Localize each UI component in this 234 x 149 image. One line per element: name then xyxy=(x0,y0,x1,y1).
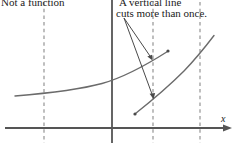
curve-upper-branch xyxy=(15,49,170,96)
vertical-line-test-graph xyxy=(0,0,234,149)
curve-lower-branch-path xyxy=(136,36,215,114)
figure-container: Not a function A vertical line cuts more… xyxy=(0,0,234,149)
x-axis xyxy=(5,125,232,132)
label-not-a-function: Not a function xyxy=(1,0,65,8)
curve-lower-endpoint-dot xyxy=(133,112,136,115)
annotation-arrow-upper-head xyxy=(147,55,152,61)
dashed-vertical-lines xyxy=(44,2,200,143)
annotation-arrows xyxy=(124,18,155,99)
label-vertical-line-second-row: cuts more than once. xyxy=(116,8,207,19)
x-axis-arrowhead xyxy=(223,125,232,132)
annotation-arrow-upper xyxy=(124,18,151,58)
curve-upper-endpoint-dot xyxy=(166,49,169,52)
x-axis-label: x xyxy=(221,113,225,124)
